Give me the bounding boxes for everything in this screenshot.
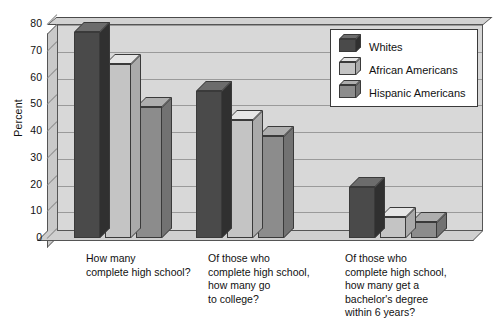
- legend-item: African Americans: [339, 59, 475, 81]
- bar: [74, 32, 100, 238]
- legend-item: Hispanic Americans: [339, 82, 475, 104]
- bar-side-face: [222, 81, 232, 238]
- legend-swatch: [339, 62, 356, 75]
- bar: [196, 91, 222, 238]
- y-axis-tick-label: 0: [16, 232, 42, 242]
- legend-swatch: [339, 85, 356, 98]
- legend: WhitesAfrican AmericansHispanic American…: [330, 29, 478, 107]
- bar-front-face: [196, 91, 222, 238]
- bar-side-face: [100, 22, 110, 238]
- y-axis-tick-label: 40: [16, 125, 42, 135]
- y-axis-tick-label: 20: [16, 179, 42, 189]
- x-axis-category-label: Of those who complete high school, how m…: [208, 252, 310, 306]
- y-axis-tick-label: 80: [16, 18, 42, 28]
- legend-swatch-front: [339, 85, 356, 98]
- x-axis-category-label: Of those who complete high school, how m…: [345, 252, 447, 320]
- y-axis-tick-label: 10: [16, 205, 42, 215]
- legend-item: Whites: [339, 36, 475, 58]
- bar-side-face: [131, 54, 141, 238]
- legend-label: Hispanic Americans: [369, 82, 466, 104]
- y-axis-title: Percent: [12, 78, 24, 158]
- y-axis-tick-label: 50: [16, 98, 42, 108]
- legend-swatch-front: [339, 39, 356, 52]
- legend-swatch: [339, 39, 356, 52]
- plot-left-wall: [47, 24, 57, 248]
- bar-side-face: [375, 177, 385, 238]
- legend-label: Whites: [369, 36, 403, 58]
- x-axis-category-label: How many complete high school?: [86, 252, 190, 279]
- bar-side-face: [162, 97, 172, 238]
- bar-front-face: [74, 32, 100, 238]
- y-axis-tick-label: 30: [16, 152, 42, 162]
- y-axis-tick-label: 60: [16, 72, 42, 82]
- y-axis-tick-label: 70: [16, 45, 42, 55]
- legend-swatch-front: [339, 62, 356, 75]
- bar-front-face: [349, 187, 375, 238]
- gridline: [58, 25, 482, 26]
- bar: [349, 187, 375, 238]
- bar-side-face: [284, 126, 294, 238]
- bar-side-face: [253, 110, 263, 238]
- legend-label: African Americans: [369, 59, 458, 81]
